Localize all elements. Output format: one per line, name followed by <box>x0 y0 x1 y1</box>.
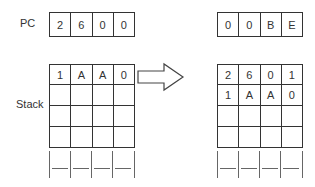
stack-cell <box>261 106 282 126</box>
stack-cell <box>93 85 114 105</box>
stack-row <box>49 106 135 127</box>
pc-digit: B <box>261 13 282 36</box>
pc-digit: 0 <box>218 13 239 36</box>
stack-row: 1 A A 0 <box>49 64 135 85</box>
stack-cell <box>50 85 71 105</box>
stack-row <box>49 127 135 148</box>
stack-cell <box>218 106 239 126</box>
stack-cell <box>114 85 134 105</box>
stack-label: Stack <box>16 98 44 110</box>
pc-digit: 2 <box>50 13 71 36</box>
stack-cell: A <box>93 65 114 84</box>
stack-cell: 1 <box>50 65 71 84</box>
stack-cell: A <box>261 85 282 105</box>
stack-cell <box>71 106 92 126</box>
pc-label: PC <box>20 17 35 29</box>
stack-before: 1 A A 0 <box>49 64 135 178</box>
stack-cell <box>218 127 239 147</box>
stack-cell <box>93 127 114 147</box>
pc-register-before: 2 6 0 0 <box>49 12 135 37</box>
stack-cell <box>71 85 92 105</box>
stack-cell <box>282 106 302 126</box>
stack-cell <box>50 127 71 147</box>
stack-cell <box>261 127 282 147</box>
stack-cell: 1 <box>282 65 302 84</box>
stack-cell <box>93 106 114 126</box>
stack-cell <box>239 106 260 126</box>
stack-cell: 0 <box>114 65 134 84</box>
stack-cell <box>282 127 302 147</box>
stack-continuation <box>217 148 303 178</box>
stack-cell: A <box>71 65 92 84</box>
pc-digit: 6 <box>71 13 92 36</box>
stack-cell: 2 <box>218 65 239 84</box>
stack-cell: A <box>239 85 260 105</box>
stack-cell: 0 <box>261 65 282 84</box>
pc-digit: E <box>282 13 302 36</box>
pc-register-after: 0 0 B E <box>217 12 303 37</box>
stack-after: 2 6 0 1 1 A A 0 <box>217 64 303 178</box>
stack-cell <box>50 106 71 126</box>
pc-digit: 0 <box>93 13 114 36</box>
stack-row <box>217 127 303 148</box>
stack-row: 2 6 0 1 <box>217 64 303 85</box>
stack-cell <box>114 106 134 126</box>
pc-digit: 0 <box>239 13 260 36</box>
stack-cell <box>71 127 92 147</box>
stack-row: 1 A A 0 <box>217 85 303 106</box>
stack-cell <box>239 127 260 147</box>
stack-cell <box>114 127 134 147</box>
pc-digit: 0 <box>114 13 134 36</box>
stack-cell: 6 <box>239 65 260 84</box>
transition-arrow-icon <box>136 62 186 92</box>
stack-row <box>217 106 303 127</box>
stack-row <box>49 85 135 106</box>
stack-continuation <box>49 148 135 178</box>
stack-cell: 0 <box>282 85 302 105</box>
stack-cell: 1 <box>218 85 239 105</box>
